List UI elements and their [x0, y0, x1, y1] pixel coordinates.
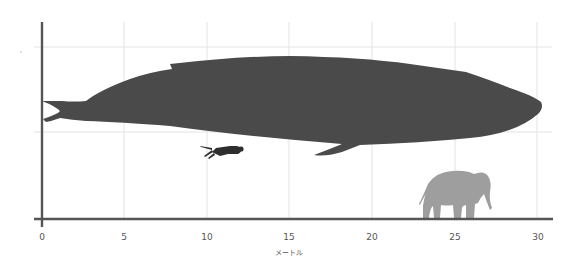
- x-axis-title: メートル: [275, 247, 303, 257]
- x-tick-label: 10: [201, 232, 212, 242]
- x-tick-label: 5: [121, 232, 127, 242]
- figure-svg: [0, 0, 584, 270]
- x-tick-label: 20: [366, 232, 377, 242]
- x-tick-label: 0: [39, 232, 45, 242]
- x-tick-label: 25: [449, 232, 460, 242]
- x-tick-label: 15: [283, 232, 294, 242]
- blue-whale-silhouette: [42, 56, 542, 156]
- size-comparison-figure: 0 5 10 15 20 25 30 メートル: [0, 0, 584, 270]
- x-tick-label: 30: [532, 232, 543, 242]
- stray-dot: [20, 51, 22, 53]
- elephant-silhouette: [419, 171, 492, 218]
